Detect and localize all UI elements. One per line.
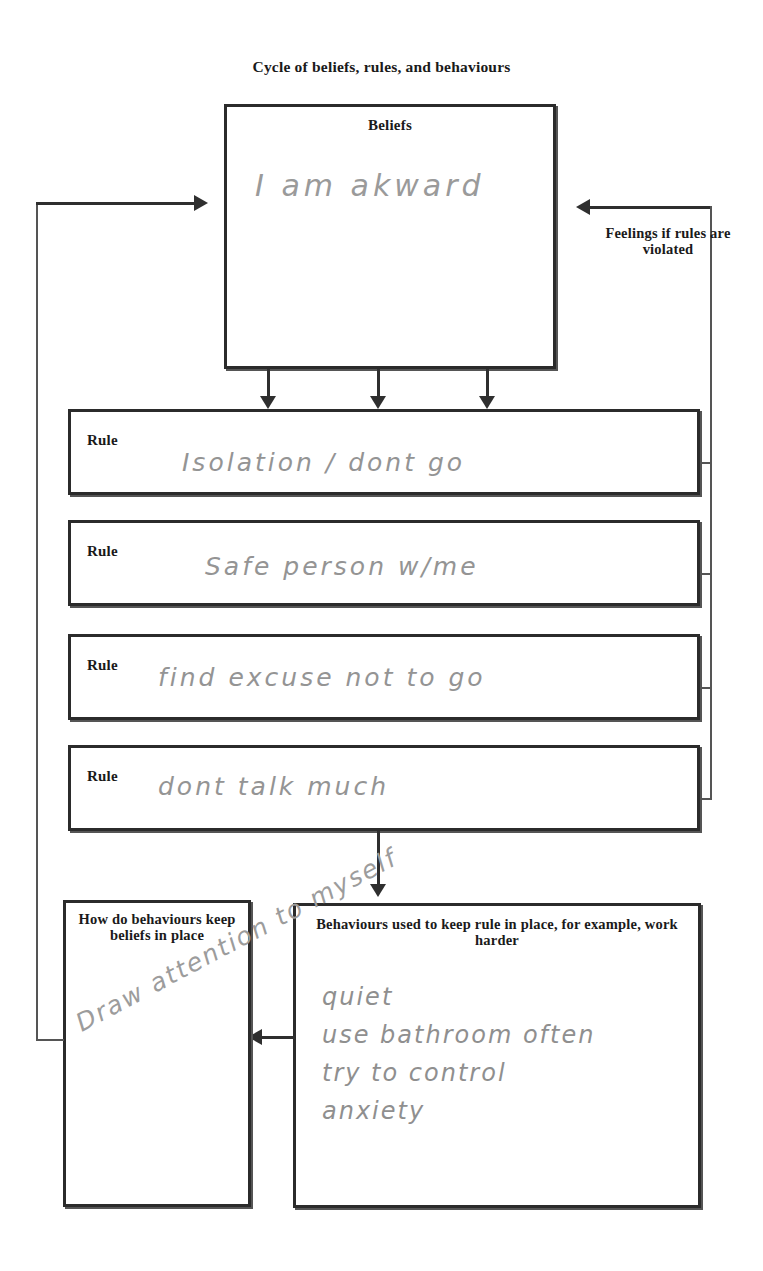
feelings-arrow-line [590, 206, 712, 209]
beliefs-handwritten-entry[interactable]: I am akward [255, 168, 485, 203]
beliefs-to-rule-line-2 [377, 369, 380, 399]
rule-handwritten-entry-2[interactable]: Safe person w/me [205, 552, 479, 581]
page-title: Cycle of beliefs, rules, and behaviours [0, 58, 763, 76]
feedback-loop-top-segment [36, 202, 196, 205]
rule-handwritten-entry-3[interactable]: find excuse not to go [158, 663, 486, 692]
rule-label-4: Rule [87, 768, 118, 785]
rule-label-2: Rule [87, 543, 118, 560]
beliefs-box[interactable]: Beliefs [224, 104, 556, 369]
rules-collector-vertical-line [710, 300, 712, 800]
rule-to-behaviours-arrowhead [370, 884, 386, 897]
beliefs-to-rule-arrowhead-1 [260, 396, 276, 409]
rule-label-1: Rule [87, 432, 118, 449]
beliefs-to-rule-arrowhead-3 [479, 396, 495, 409]
feelings-if-rules-violated-label: Feelings if rules are violated [588, 225, 748, 257]
feedback-loop-bottom-segment [36, 1039, 64, 1041]
rule-label-3: Rule [87, 657, 118, 674]
beliefs-to-rule-line-1 [267, 369, 270, 399]
rule-handwritten-entry-1[interactable]: Isolation / dont go [182, 448, 465, 477]
feelings-arrowhead [576, 199, 590, 215]
beliefs-to-rule-line-3 [486, 369, 489, 399]
feedback-loop-vertical-segment [36, 203, 38, 1041]
behaviours-handwritten-entry[interactable]: quiet use bathroom often try to control … [322, 978, 595, 1130]
feedback-loop-arrowhead [194, 195, 208, 211]
behaviours-heading: Behaviours used to keep rule in place, f… [296, 916, 698, 948]
beliefs-heading: Beliefs [227, 117, 553, 134]
rule-handwritten-entry-4[interactable]: dont talk much [158, 772, 389, 801]
worksheet-page: Cycle of beliefs, rules, and behaviours … [0, 0, 763, 1271]
behaviours-to-keep-beliefs-line [262, 1036, 295, 1039]
beliefs-to-rule-arrowhead-2 [370, 396, 386, 409]
